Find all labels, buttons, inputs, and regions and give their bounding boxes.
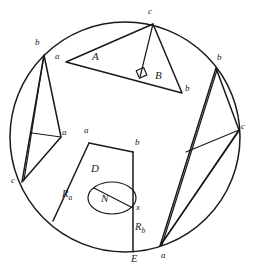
top-triangle [66,24,182,93]
point-x-label: x [136,203,140,212]
right-triangle-vertex-c-label: c [241,122,245,131]
ellipse-N-label: N [101,193,108,204]
left-triangle-vertex-b-label: b [35,38,40,47]
right-triangle-vertex-a-label: a [161,251,166,260]
radius-Ra-subscript: a [68,193,72,202]
point-E-label: E [131,254,137,265]
inner-ellipse-N [88,182,136,214]
ellipse-chord [94,188,133,208]
top-triangle-outline [66,24,182,93]
center-left-edge-Ra [53,143,89,221]
left-triangle-vertex-c-label: c [11,176,15,185]
radius-Ra-label: Ra [62,189,72,202]
left-triangle-inner-edge [24,55,44,180]
center-top-edge [89,143,133,152]
top-triangle-vertex-a-label: a [55,52,60,61]
center-corner-b-label: b [135,138,140,147]
right-triangle-inner-edge [162,70,217,245]
right-triangle-vertex-b-label: b [217,53,222,62]
top-triangle-vertex-b-label: b [185,84,190,93]
right-triangle [160,68,239,246]
left-triangle-vertex-a-label: a [62,128,67,137]
region-D-label: D [91,163,99,174]
angle-B-label: B [155,70,162,81]
top-triangle-vertex-c-label: c [148,7,152,16]
angle-A-label: A [92,51,99,62]
left-triangle [22,55,61,182]
radius-Rb-label: Rb [135,222,145,235]
right-triangle-outline [160,68,239,246]
left-triangle-cevian [32,133,61,137]
top-triangle-altitude [140,24,153,77]
radius-Rb-subscript: b [141,226,145,235]
geometry-figure: . . . . [0,0,254,276]
center-corner-a-label: a [84,126,89,135]
